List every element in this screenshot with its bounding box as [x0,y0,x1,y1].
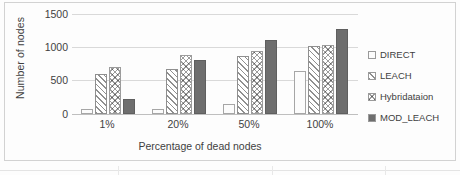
y-tick-label: 0 [8,108,68,120]
bar-leach-20pct[interactable] [166,69,178,114]
bar-leach-100pct[interactable] [308,46,320,114]
bar-group-50pct [214,14,285,114]
figure-border-bottom [4,160,456,161]
x-tick-label: 20% [143,118,213,130]
bar-hybridataion-1pct[interactable] [109,67,121,114]
x-tick-label: 1% [72,118,142,130]
legend-label: MOD_LEACH [380,112,439,123]
y-tick-label: 500 [8,74,68,86]
chart-legend: DIRECT LEACH Hybridataion MOD_LEACH [368,44,458,128]
bar-direct-1pct[interactable] [81,109,93,114]
bar-group-20pct [143,14,214,114]
x-tick-label: 100% [285,118,355,130]
bar-hybridataion-20pct[interactable] [180,55,192,114]
legend-item-hybridataion[interactable]: Hybridataion [368,86,458,107]
page-artifact-mark [272,166,273,175]
x-tick-label: 50% [214,118,284,130]
x-axis-line [72,114,358,115]
x-axis-tick-labels: 1% 20% 50% 100% [72,118,358,134]
legend-swatch-icon [368,72,376,80]
bar-leach-50pct[interactable] [237,56,249,114]
y-tick-label: 1500 [8,8,68,20]
page-separator-line [0,170,460,171]
bar-leach-1pct[interactable] [95,74,107,114]
legend-swatch-icon [368,51,376,59]
figure-border-top [4,2,456,3]
legend-label: DIRECT [380,49,415,60]
bar-mod-leach-100pct[interactable] [336,29,348,114]
legend-swatch-icon [368,114,376,122]
legend-label: LEACH [380,70,412,81]
legend-item-direct[interactable]: DIRECT [368,44,458,65]
y-tick-label: 1000 [8,41,68,53]
bar-mod-leach-1pct[interactable] [123,99,135,114]
legend-label: Hybridataion [380,91,433,102]
bar-mod-leach-20pct[interactable] [194,60,206,114]
bar-direct-100pct[interactable] [294,71,306,114]
bar-hybridataion-50pct[interactable] [251,51,263,114]
page-artifact-mark [385,166,386,175]
bar-direct-20pct[interactable] [152,109,164,114]
bar-group-100pct [285,14,356,114]
page-artifact-mark [118,166,119,175]
bar-direct-50pct[interactable] [223,104,235,114]
legend-item-leach[interactable]: LEACH [368,65,458,86]
y-axis-tick-labels: 1500 1000 500 0 [4,14,68,114]
chart-figure: Number of nodes 1500 1000 500 0 [0,0,460,175]
bar-group-1pct [72,14,143,114]
bar-groups [72,14,358,114]
legend-item-mod-leach[interactable]: MOD_LEACH [368,107,458,128]
legend-swatch-icon [368,93,376,101]
x-axis-title: Percentage of dead nodes [60,140,340,152]
bar-hybridataion-100pct[interactable] [322,45,334,114]
bar-mod-leach-50pct[interactable] [265,40,277,114]
